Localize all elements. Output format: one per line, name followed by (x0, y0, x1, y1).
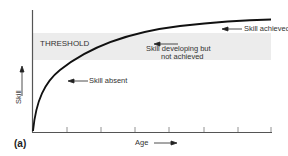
x-axis-label: Age (135, 139, 148, 147)
arrowhead-icon (171, 141, 177, 145)
arrowhead-icon (68, 79, 74, 83)
arrowhead-icon (20, 66, 24, 72)
annotation-skill-absent: Skill absent (89, 77, 127, 85)
y-axis-label: Skill (15, 90, 23, 104)
x-ticks (67, 127, 271, 132)
annotation-skill-developing-2: not achieved (161, 53, 204, 61)
figure-label: (a) (14, 138, 26, 149)
arrowhead-icon (222, 27, 228, 31)
threshold-label: THRESHOLD (40, 40, 89, 48)
annotation-skill-achieved: Skill achieved (244, 25, 288, 33)
